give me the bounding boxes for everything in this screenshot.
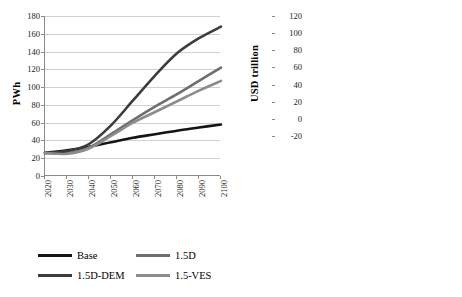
line-series-1-5d — [45, 68, 221, 154]
y-tick-label: 120 — [14, 65, 40, 74]
legend-label: Base — [77, 250, 97, 261]
y-tick-label: 180 — [14, 12, 40, 21]
legend-line-swatch — [38, 274, 72, 277]
y-tick-label: 20 — [249, 98, 302, 107]
y-tick-mark — [272, 16, 275, 17]
x-tick-mark — [220, 176, 221, 179]
y-tick-mark — [272, 136, 275, 137]
line-series-base — [45, 124, 221, 152]
legend-label: 1.5D — [175, 250, 196, 261]
y-tick-label: 120 — [249, 12, 302, 21]
y-tick-mark — [272, 119, 275, 120]
y-tick-label: 40 — [249, 81, 302, 90]
x-tick-label: 2030 — [66, 180, 75, 197]
legend-line-swatch — [38, 254, 72, 257]
x-tick-mark — [132, 176, 133, 179]
x-tick-label: 2100 — [220, 180, 229, 197]
x-tick-label: 2070 — [154, 180, 163, 197]
two-panel-figure: PWh 020406080100120140160180 20202030204… — [0, 0, 462, 297]
legend-label: 1.5D-DEM — [77, 270, 125, 281]
y-tick-label: 20 — [14, 154, 40, 163]
line-chart-plot-area — [44, 16, 220, 176]
bar-chart-panel: USD trillion -20020406080100120 1.5D1.5D… — [231, 0, 462, 297]
legend-item[interactable]: 1.5-VES — [136, 270, 230, 281]
line-chart-legend: Base1.5D1.5D-DEM1.5-VES — [38, 250, 230, 281]
x-tick-label: 2020 — [44, 180, 53, 197]
legend-line-swatch — [136, 254, 170, 257]
legend-label: 1.5-VES — [175, 270, 211, 281]
line-series-1-5-ves — [45, 81, 221, 154]
y-tick-label: 0 — [249, 115, 302, 124]
line-chart-series-svg — [45, 16, 221, 176]
y-tick-label: 100 — [249, 29, 302, 38]
x-tick-label: 2060 — [132, 180, 141, 197]
x-tick-mark — [154, 176, 155, 179]
y-tick-label: 60 — [14, 119, 40, 128]
y-tick-mark — [272, 85, 275, 86]
y-tick-label: 0 — [14, 172, 40, 181]
y-tick-label: 80 — [14, 101, 40, 110]
x-tick-label: 2080 — [176, 180, 185, 197]
legend-item[interactable]: 1.5D — [136, 250, 230, 261]
y-tick-mark — [272, 102, 275, 103]
x-tick-mark — [44, 176, 45, 179]
x-tick-label: 2040 — [88, 180, 97, 197]
x-tick-mark — [198, 176, 199, 179]
y-tick-mark — [272, 50, 275, 51]
y-tick-mark — [272, 33, 275, 34]
y-tick-label: -20 — [249, 132, 302, 141]
legend-line-swatch — [136, 274, 170, 277]
x-tick-label: 2050 — [110, 180, 119, 197]
legend-item[interactable]: Base — [38, 250, 132, 261]
line-series-1-5d-dem — [45, 27, 221, 153]
x-tick-mark — [110, 176, 111, 179]
y-tick-label: 60 — [249, 63, 302, 72]
y-tick-label: 100 — [14, 83, 40, 92]
y-tick-label: 140 — [14, 48, 40, 57]
y-tick-label: 40 — [14, 136, 40, 145]
y-tick-mark — [272, 67, 275, 68]
x-tick-mark — [88, 176, 89, 179]
y-tick-label: 80 — [249, 46, 302, 55]
x-tick-label: 2090 — [198, 180, 207, 197]
x-tick-mark — [66, 176, 67, 179]
x-tick-mark — [176, 176, 177, 179]
y-tick-label: 160 — [14, 30, 40, 39]
line-chart-panel: PWh 020406080100120140160180 20202030204… — [0, 0, 231, 297]
legend-item[interactable]: 1.5D-DEM — [38, 270, 132, 281]
